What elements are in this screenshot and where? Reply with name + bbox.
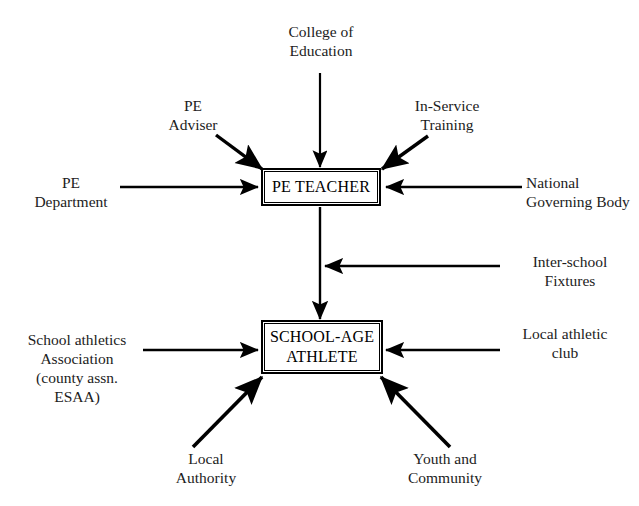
label-national-governing-body: National Governing Body [526, 173, 638, 211]
label-youth-and-community: Youth and Community [382, 449, 508, 487]
label-inter-school-fixtures: Inter-school Fixtures [506, 252, 634, 290]
arrow-in-service-training-to-pe-teacher [382, 136, 428, 169]
node-school-age-athlete[interactable]: SCHOOL-AGE ATHLETE [264, 323, 380, 371]
node-pe-teacher[interactable]: PE TEACHER [264, 171, 378, 203]
label-local-authority: Local Authority [150, 449, 262, 487]
node-pe-teacher-label: PE TEACHER [272, 177, 370, 197]
node-school-age-athlete-label: SCHOOL-AGE ATHLETE [270, 327, 374, 367]
arrow-local-authority-to-school-age-athlete [193, 377, 262, 447]
label-in-service-training: In-Service Training [392, 96, 502, 134]
label-school-athletics-association: School athletics Association (county ass… [12, 330, 142, 406]
arrow-youth-and-community-to-school-age-athlete [381, 377, 450, 447]
label-college-of-education: College of Education [258, 22, 384, 60]
label-pe-department: PE Department [22, 173, 120, 211]
label-pe-adviser: PE Adviser [148, 96, 238, 134]
label-local-athletic-club: Local athletic club [504, 324, 626, 362]
diagram-canvas: PE TEACHER SCHOOL-AGE ATHLETE College of… [0, 0, 639, 506]
arrow-pe-adviser-to-pe-teacher [216, 135, 262, 169]
